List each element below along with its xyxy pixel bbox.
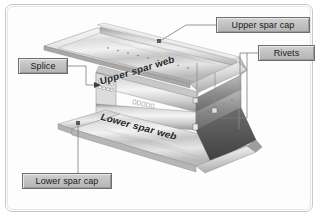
rivet-head-bottom xyxy=(193,124,198,130)
rivet-head-lower xyxy=(212,108,217,113)
leader-splice xyxy=(68,66,94,85)
callout-lower-spar-cap[interactable]: Lower spar cap xyxy=(22,173,112,189)
mid-splice-rivet-holes xyxy=(133,100,154,108)
callout-splice[interactable]: Splice xyxy=(18,58,68,74)
rivet-head-upper xyxy=(193,98,198,103)
callout-upper-spar-cap[interactable]: Upper spar cap xyxy=(216,17,310,33)
leader-upper-spar-cap xyxy=(160,25,216,41)
leader-marker-upper-spar-cap xyxy=(157,39,161,43)
leader-marker-lower-spar-cap xyxy=(76,121,80,125)
callout-rivets[interactable]: Rivets xyxy=(258,45,315,61)
figure-canvas: Upper spar web Lower spar web Upper spar… xyxy=(0,0,321,220)
